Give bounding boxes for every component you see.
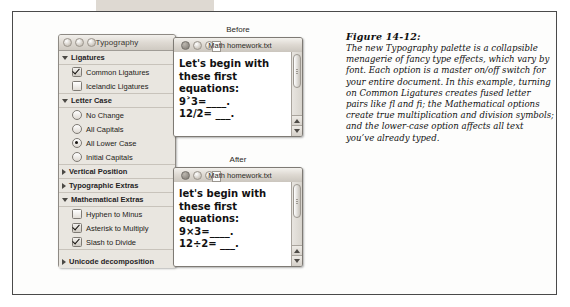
palette-section-label: Typographic Extras xyxy=(69,181,138,190)
after-label: After xyxy=(173,155,303,164)
document-text-area[interactable]: Let's begin with these first equations: … xyxy=(174,52,291,136)
palette-option-all-capitals[interactable]: All Capitals xyxy=(59,122,175,136)
chevron-right-icon[interactable] xyxy=(62,169,66,175)
checkbox-unchecked-icon[interactable] xyxy=(72,209,82,219)
figure-caption-heading: Figure 14-12: xyxy=(346,31,554,42)
radio-unselected-icon[interactable] xyxy=(72,124,82,134)
vertical-scrollbar[interactable] xyxy=(291,52,302,136)
vertical-scrollbar[interactable] xyxy=(291,182,302,266)
palette-option-all-lower-case[interactable]: All Lower Case xyxy=(59,136,175,150)
palette-option-label: No Change xyxy=(86,111,124,120)
palette-option-asterisk-to-multiply[interactable]: Asterisk to Multiply xyxy=(59,221,175,235)
palette-section-header-mathematical-extras[interactable]: Mathematical Extras xyxy=(59,193,175,207)
palette-section-label: Vertical Position xyxy=(69,167,127,176)
palette-window-controls[interactable] xyxy=(63,38,96,47)
close-dot-icon[interactable] xyxy=(63,38,72,47)
checkbox-unchecked-icon[interactable] xyxy=(72,81,82,91)
document-window-after[interactable]: Math homework.txt let's begin with these… xyxy=(173,167,303,267)
page-canvas: Typography Ligatures Common Ligatures Ic… xyxy=(0,0,570,307)
before-label: Before xyxy=(173,25,303,34)
document-window-before[interactable]: Math homework.txt Let's begin with these… xyxy=(173,37,303,137)
palette-titlebar[interactable]: Typography xyxy=(59,35,175,51)
scrollbar-thumb[interactable] xyxy=(293,184,301,218)
minimize-dot-icon[interactable] xyxy=(75,38,84,47)
palette-option-label: All Lower Case xyxy=(86,139,136,148)
palette-section-header-typographic-extras[interactable]: Typographic Extras xyxy=(59,179,175,193)
document-text: let's begin with these ﬁrst equations: 9… xyxy=(179,188,286,251)
palette-section-label: Ligatures xyxy=(71,53,105,62)
palette-option-initial-capitals[interactable]: Initial Capitals xyxy=(59,150,175,164)
palette-section-header-letter-case[interactable]: Letter Case xyxy=(59,94,175,108)
checkbox-checked-icon[interactable] xyxy=(72,237,82,247)
palette-section-header-vertical-position[interactable]: Vertical Position xyxy=(59,165,175,179)
palette-option-common-ligatures[interactable]: Common Ligatures xyxy=(59,65,175,79)
scan-artifact-left xyxy=(0,0,12,307)
chevron-down-icon[interactable] xyxy=(62,198,68,202)
palette-section-label: Letter Case xyxy=(71,96,112,105)
scrollbar-thumb[interactable] xyxy=(293,54,301,88)
file-icon xyxy=(212,41,221,52)
palette-option-label: Asterisk to Multiply xyxy=(86,224,149,233)
palette-option-hyphen-to-minus[interactable]: Hyphen to Minus xyxy=(59,207,175,221)
document-titlebar[interactable]: Math homework.txt xyxy=(174,38,302,53)
checkbox-checked-icon[interactable] xyxy=(72,67,82,77)
document-window-controls[interactable] xyxy=(181,41,214,50)
document-window-controls[interactable] xyxy=(181,171,214,180)
file-icon xyxy=(212,171,221,182)
palette-option-label: Initial Capitals xyxy=(86,153,133,162)
figure-caption-block: Figure 14-12: The new Typography palette… xyxy=(346,31,554,144)
palette-option-label: Hyphen to Minus xyxy=(86,210,142,219)
chevron-right-icon[interactable] xyxy=(62,183,66,189)
palette-option-label: Slash to Divide xyxy=(86,238,136,247)
chevron-right-icon[interactable] xyxy=(62,259,66,265)
zoom-dot-icon[interactable] xyxy=(87,38,96,47)
palette-option-label: All Capitals xyxy=(86,125,124,134)
figure-frame: Typography Ligatures Common Ligatures Ic… xyxy=(12,11,557,295)
radio-unselected-icon[interactable] xyxy=(72,152,82,162)
typography-palette-window[interactable]: Typography Ligatures Common Ligatures Ic… xyxy=(58,34,176,268)
scroll-down-arrow-icon[interactable] xyxy=(292,125,302,136)
palette-section-header-ligatures[interactable]: Ligatures xyxy=(59,51,175,65)
chevron-down-icon[interactable] xyxy=(62,99,68,103)
palette-section-label: Mathematical Extras xyxy=(71,195,144,204)
palette-option-slash-to-divide[interactable]: Slash to Divide xyxy=(59,235,175,249)
palette-option-icelandic-ligatures[interactable]: Icelandic Ligatures xyxy=(59,79,175,93)
minimize-dot-icon[interactable] xyxy=(193,41,202,50)
palette-section-label: Unicode decomposition xyxy=(69,257,154,266)
palette-option-label: Icelandic Ligatures xyxy=(86,82,149,91)
document-text-area[interactable]: let's begin with these ﬁrst equations: 9… xyxy=(174,182,291,266)
scroll-down-arrow-icon[interactable] xyxy=(292,255,302,266)
radio-unselected-icon[interactable] xyxy=(72,110,82,120)
chevron-down-icon[interactable] xyxy=(62,56,68,60)
close-dot-icon[interactable] xyxy=(181,171,190,180)
figure-caption-text: The new Typography palette is a collapsi… xyxy=(346,43,554,144)
radio-selected-icon[interactable] xyxy=(72,138,82,148)
palette-section-header-unicode-decomposition[interactable]: Unicode decomposition xyxy=(59,255,175,268)
palette-body: Ligatures Common Ligatures Icelandic Lig… xyxy=(59,51,175,268)
document-titlebar[interactable]: Math homework.txt xyxy=(174,168,302,183)
minimize-dot-icon[interactable] xyxy=(193,171,202,180)
palette-option-label: Common Ligatures xyxy=(86,68,149,77)
close-dot-icon[interactable] xyxy=(181,41,190,50)
document-text: Let's begin with these first equations: … xyxy=(179,58,286,121)
palette-option-no-change[interactable]: No Change xyxy=(59,108,175,122)
checkbox-checked-icon[interactable] xyxy=(72,223,82,233)
